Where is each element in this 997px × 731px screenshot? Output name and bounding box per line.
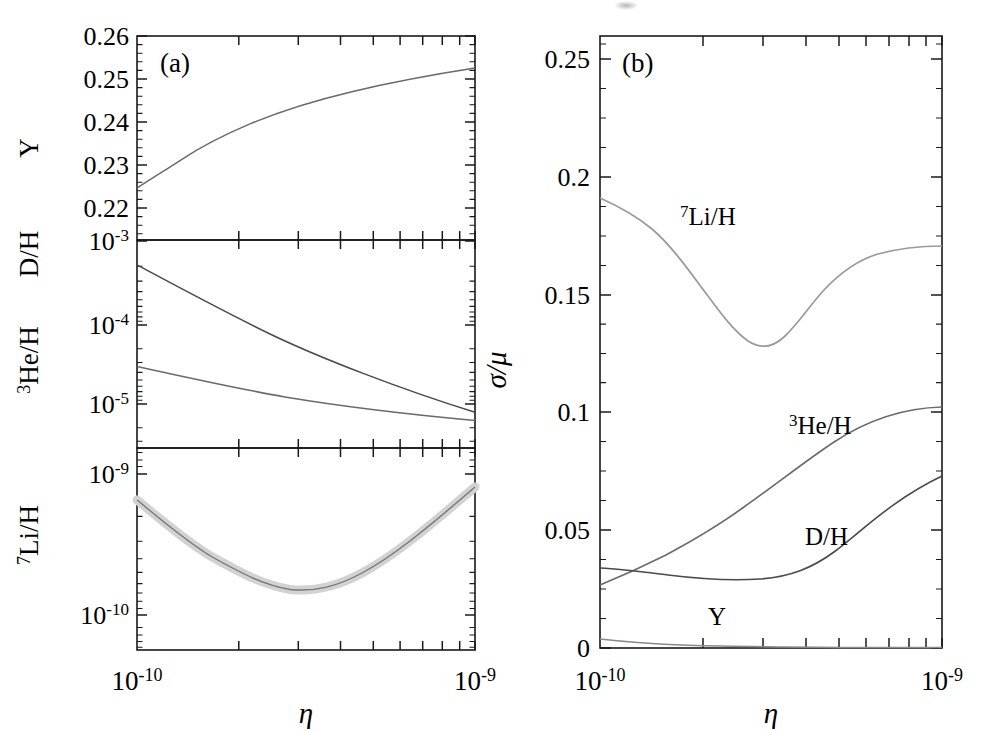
curve-label-b-3HeH: 3He/H [789, 411, 852, 439]
panel-a-tag: (a) [160, 48, 190, 78]
svg-text:10-3: 10-3 [89, 226, 129, 256]
panel-b: (b) 0.25 0.2 0.15 0.1 0.05 0 σ/μ 7Li/H 3… [480, 36, 963, 729]
ylabel-b: σ/μ [480, 352, 512, 389]
curve-b-DH [600, 476, 942, 580]
curve-a-DH [137, 265, 475, 412]
ytick-b-0.25: 0.25 [545, 45, 591, 74]
ytick-a-Y-0.26: 0.26 [84, 22, 130, 51]
ytick-a-DH-1e-4: 10-4 [89, 310, 130, 340]
ytick-a-DH-1e-3: 10-3 [89, 226, 129, 256]
curve-a-3HeH [137, 366, 475, 420]
y-minor-ticks-b [600, 44, 942, 619]
panel-b-tag: (b) [622, 48, 653, 78]
ytick-a-Y-0.24: 0.24 [84, 108, 130, 137]
ytick-a-Y-0.25: 0.25 [84, 65, 130, 94]
curve-label-b-Y: Y [708, 603, 726, 630]
curve-b-3HeH [600, 407, 942, 585]
y-major-ticks-a-DH [137, 241, 475, 404]
svg-text:10-10: 10-10 [80, 600, 129, 630]
svg-text:7Li/H: 7Li/H [680, 202, 736, 230]
svg-text:10-5: 10-5 [89, 389, 129, 419]
ylabel-a-7LiH: 7Li/H [14, 505, 44, 565]
svg-text:3He/H: 3He/H [14, 326, 44, 393]
curve-label-b-7LiH: 7Li/H [680, 202, 736, 230]
band-a-7LiH [137, 487, 475, 590]
ytick-a-DH-1e-5: 10-5 [89, 389, 129, 419]
svg-text:10-9: 10-9 [921, 665, 963, 696]
y-major-ticks-b [600, 59, 942, 648]
ytick-b-0.2: 0.2 [558, 163, 591, 192]
ylabel-a-3HeH: 3He/H [14, 326, 44, 393]
ylabel-a-DH: D/H [14, 231, 44, 278]
xlabel-a: η [299, 697, 313, 729]
ytick-b-0: 0 [577, 634, 590, 663]
ytick-a-7LiH-1e-9: 10-9 [89, 459, 129, 489]
svg-text:10-9: 10-9 [89, 459, 129, 489]
svg-text:10-9: 10-9 [454, 665, 496, 696]
ytick-b-0.15: 0.15 [545, 281, 591, 310]
x-ticks-a-7LiH [239, 448, 475, 650]
curve-label-b-DH: D/H [805, 523, 848, 550]
ytick-a-Y-0.23: 0.23 [84, 151, 130, 180]
curve-b-7LiH [600, 198, 942, 346]
xlabel-b: η [764, 697, 778, 729]
xtick-a-right: 10-9 [454, 665, 496, 696]
figure-container: (a) 0.26 0.25 0.24 0.23 0.22 10-3 10-4 1… [0, 0, 997, 731]
xtick-b-left: 10-10 [575, 665, 626, 696]
svg-text:10-10: 10-10 [575, 665, 626, 696]
ytick-a-Y-0.22: 0.22 [84, 194, 130, 223]
curve-b-Y [600, 639, 942, 648]
y-minor-ticks-a-7LiH [137, 453, 475, 648]
figure-svg: (a) 0.26 0.25 0.24 0.23 0.22 10-3 10-4 1… [0, 0, 997, 731]
svg-text:3He/H: 3He/H [789, 411, 852, 439]
svg-text:7Li/H: 7Li/H [14, 505, 44, 565]
ylabel-a-Y: Y [14, 138, 44, 158]
ytick-b-0.1: 0.1 [558, 398, 591, 427]
svg-text:10-10: 10-10 [112, 665, 163, 696]
subpanel-a-DH [137, 240, 475, 448]
svg-text:10-4: 10-4 [89, 310, 130, 340]
subpanel-a-7LiH [137, 448, 475, 650]
x-ticks-b [703, 36, 942, 648]
panel-a: (a) 0.26 0.25 0.24 0.23 0.22 10-3 10-4 1… [14, 22, 496, 729]
xtick-a-left: 10-10 [112, 665, 163, 696]
x-ticks-a-Y [239, 36, 475, 240]
ytick-a-7LiH-1e-10: 10-10 [80, 600, 129, 630]
curve-a-Y [137, 68, 475, 188]
xtick-b-right: 10-9 [921, 665, 963, 696]
ytick-b-0.05: 0.05 [545, 516, 591, 545]
